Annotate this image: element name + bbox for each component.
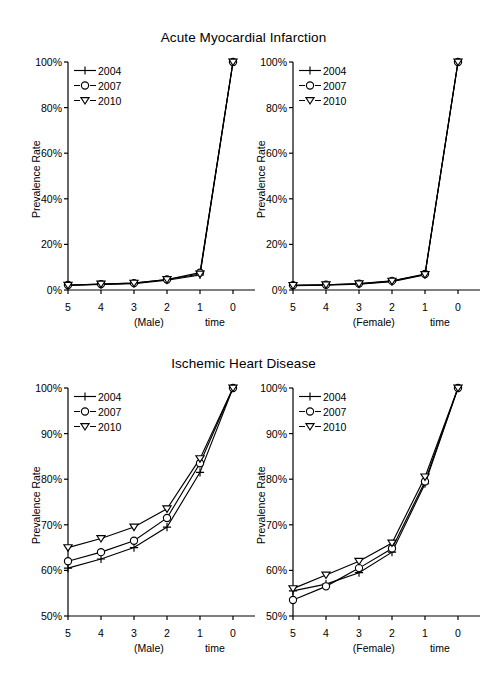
x-axis-tick-label: 1	[197, 627, 203, 639]
legend-item-2010[interactable]: 2010	[73, 419, 121, 434]
x-axis-tick-label: 1	[197, 301, 203, 313]
x-axis-tick-label: 0	[455, 301, 461, 313]
legend-label: 2010	[98, 95, 121, 107]
x-axis-tick-label: 3	[131, 627, 137, 639]
legend-label: 2010	[323, 95, 346, 107]
x-axis-tick-label: 5	[65, 627, 71, 639]
x-axis-tick-label: 3	[356, 627, 362, 639]
plot-area	[253, 62, 487, 298]
x-axis-tick-label: 4	[323, 627, 329, 639]
legend-label: 2004	[323, 391, 346, 403]
triangle-down-marker	[73, 94, 97, 107]
legend-label: 2004	[98, 391, 121, 403]
x-axis-tick-label: 5	[290, 627, 296, 639]
x-axis-label: time	[430, 316, 450, 328]
legend-item-2010[interactable]: 2010	[298, 419, 346, 434]
circle-marker	[298, 79, 322, 92]
legend-item-2004[interactable]: 2004	[298, 63, 346, 78]
x-axis-tick-label: 1	[422, 627, 428, 639]
legend-item-2007[interactable]: 2007	[298, 78, 346, 93]
legend-label: 2004	[98, 65, 121, 77]
x-axis-tick-label: 5	[65, 301, 71, 313]
legend-label: 2007	[98, 80, 121, 92]
plus-marker	[298, 390, 322, 403]
x-axis-tick-label: 0	[455, 627, 461, 639]
triangle-down-marker	[298, 94, 322, 107]
plus-marker	[73, 64, 97, 77]
x-axis-tick-label: 2	[389, 301, 395, 313]
x-axis-tick-label: 2	[164, 301, 170, 313]
legend-label: 2010	[98, 421, 121, 433]
legend-item-2004[interactable]: 2004	[73, 389, 121, 404]
legend-item-2007[interactable]: 2007	[73, 404, 121, 419]
x-axis-tick-label: 1	[422, 301, 428, 313]
plus-marker	[73, 390, 97, 403]
legend-item-2004[interactable]: 2004	[298, 389, 346, 404]
x-axis-tick-label: 3	[131, 301, 137, 313]
x-axis-group-label: (Female)	[353, 316, 395, 328]
x-axis-tick-label: 4	[323, 301, 329, 313]
x-axis-tick-label: 2	[164, 627, 170, 639]
legend-item-2004[interactable]: 2004	[73, 63, 121, 78]
legend: 200420072010	[298, 63, 346, 108]
triangle-down-marker	[298, 420, 322, 433]
legend-item-2010[interactable]: 2010	[298, 93, 346, 108]
circle-marker	[298, 405, 322, 418]
x-axis-tick-label: 5	[290, 301, 296, 313]
legend: 200420072010	[73, 63, 121, 108]
legend-item-2007[interactable]: 2007	[73, 78, 121, 93]
plot-area	[28, 62, 263, 298]
x-axis-group-label: (Female)	[353, 642, 395, 654]
x-axis-label: time	[430, 642, 450, 654]
legend-label: 2007	[98, 406, 121, 418]
plot-area	[253, 388, 487, 624]
legend-label: 2007	[323, 406, 346, 418]
x-axis-label: time	[205, 316, 225, 328]
legend: 200420072010	[298, 389, 346, 434]
x-axis-tick-label: 3	[356, 301, 362, 313]
legend-item-2010[interactable]: 2010	[73, 93, 121, 108]
x-axis-group-label: (Male)	[134, 642, 164, 654]
x-axis-tick-label: 2	[389, 627, 395, 639]
legend: 200420072010	[73, 389, 121, 434]
circle-marker	[73, 79, 97, 92]
panel-ihd-male: Prevalence Rate50%60%70%80%90%100%543210…	[28, 388, 267, 662]
plus-marker	[298, 64, 322, 77]
legend-label: 2004	[323, 65, 346, 77]
chart-title-ischemic-heart-disease: Ischemic Heart Disease	[0, 356, 487, 371]
chart-title-acute-myocardial-infarction: Acute Myocardial Infarction	[0, 30, 487, 45]
legend-label: 2010	[323, 421, 346, 433]
panel-ami-male: Prevalence Rate0%20%40%60%80%100%543210(…	[28, 62, 267, 336]
x-axis-tick-label: 4	[98, 301, 104, 313]
legend-item-2007[interactable]: 2007	[298, 404, 346, 419]
plot-area	[28, 388, 263, 624]
panel-ami-female: Prevalence Rate0%20%40%60%80%100%543210(…	[253, 62, 487, 336]
circle-marker	[73, 405, 97, 418]
x-axis-tick-label: 4	[98, 627, 104, 639]
triangle-down-marker	[73, 420, 97, 433]
x-axis-group-label: (Male)	[134, 316, 164, 328]
legend-label: 2007	[323, 80, 346, 92]
panel-ihd-female: Prevalence Rate50%60%70%80%90%100%543210…	[253, 388, 487, 662]
x-axis-tick-label: 0	[230, 627, 236, 639]
x-axis-label: time	[205, 642, 225, 654]
x-axis-tick-label: 0	[230, 301, 236, 313]
figure-canvas: Acute Myocardial Infarction Ischemic Hea…	[0, 0, 487, 676]
